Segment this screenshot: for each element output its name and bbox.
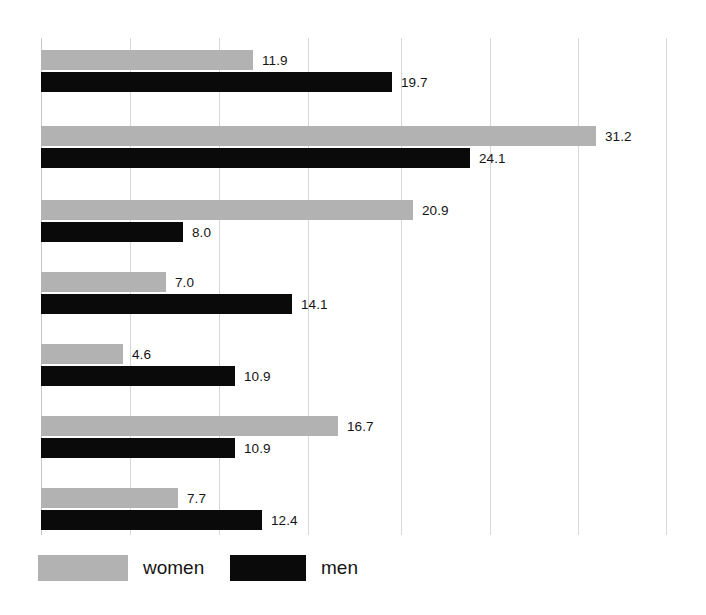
bar-men[interactable] (41, 294, 292, 314)
plot-area: 11.9 19.7 31.2 24.1 20.9 (41, 38, 706, 535)
bar-chart: 11.9 19.7 31.2 24.1 20.9 (0, 0, 706, 615)
bar-women[interactable] (41, 126, 596, 146)
bar-women[interactable] (41, 416, 338, 436)
bar-group-3: 20.9 8.0 (41, 200, 706, 252)
legend-label-men: men (321, 557, 358, 579)
bar-group-6: 16.7 10.9 (41, 416, 706, 468)
bar-women[interactable] (41, 488, 178, 508)
legend-label-women: women (143, 557, 204, 579)
legend-entry-women[interactable]: women (38, 553, 204, 583)
bar-women[interactable] (41, 200, 413, 220)
bar-men[interactable] (41, 72, 392, 92)
bar-value-women: 7.7 (187, 491, 206, 506)
bar-value-women: 11.9 (262, 53, 288, 68)
bar-men[interactable] (41, 366, 235, 386)
bar-women[interactable] (41, 50, 253, 70)
bar-group-2: 31.2 24.1 (41, 126, 706, 178)
bar-value-women: 4.6 (132, 347, 151, 362)
bar-group-7: 7.7 12.4 (41, 488, 706, 540)
bar-men[interactable] (41, 222, 183, 242)
bar-value-women: 31.2 (605, 129, 632, 144)
bar-men[interactable] (41, 438, 235, 458)
bar-group-5: 4.6 10.9 (41, 344, 706, 396)
bar-value-men: 19.7 (401, 75, 428, 90)
bar-women[interactable] (41, 272, 166, 292)
legend-entry-men[interactable]: men (230, 553, 358, 583)
bar-value-men: 14.1 (301, 297, 328, 312)
bar-women[interactable] (41, 344, 123, 364)
legend-swatch-women-icon (38, 555, 128, 581)
bar-group-4: 7.0 14.1 (41, 272, 706, 324)
bar-value-women: 20.9 (422, 203, 449, 218)
bar-value-men: 12.4 (271, 513, 298, 528)
bar-value-men: 10.9 (244, 441, 271, 456)
bar-men[interactable] (41, 510, 262, 530)
bar-value-men: 8.0 (192, 225, 211, 240)
bar-value-men: 10.9 (244, 369, 271, 384)
bar-men[interactable] (41, 148, 470, 168)
bar-value-women: 16.7 (347, 419, 374, 434)
bar-group-1: 11.9 19.7 (41, 50, 706, 102)
bar-value-women: 7.0 (175, 275, 194, 290)
legend-swatch-men-icon (230, 555, 306, 581)
bar-value-men: 24.1 (479, 151, 506, 166)
